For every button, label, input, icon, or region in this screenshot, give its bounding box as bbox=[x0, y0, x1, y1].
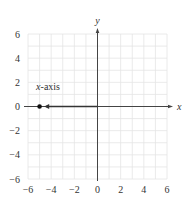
y-axis-arrowhead bbox=[96, 28, 100, 33]
y-tick-label: 4 bbox=[15, 53, 20, 64]
x-tick-label: 2 bbox=[118, 184, 123, 195]
x-tick-label: −2 bbox=[69, 184, 80, 195]
y-tick-label: −2 bbox=[9, 125, 20, 136]
coordinate-plane-chart: −6−4−20246 −6−4−20246 x y x-axis bbox=[0, 0, 184, 208]
x-tick-label: 6 bbox=[165, 184, 170, 195]
y-tick-label: 2 bbox=[15, 77, 20, 88]
annotation-x-axis: x-axis bbox=[35, 81, 60, 92]
x-tick-label: 0 bbox=[95, 184, 100, 195]
y-tick-label: −4 bbox=[9, 149, 20, 160]
y-tick-label: 6 bbox=[15, 29, 20, 40]
y-tick-label: −6 bbox=[9, 174, 20, 185]
x-tick-label: 4 bbox=[141, 184, 146, 195]
annotation-rest-part: -axis bbox=[41, 81, 61, 92]
y-tick-label: 0 bbox=[15, 101, 20, 112]
data-point-dot bbox=[37, 104, 42, 109]
axes bbox=[24, 28, 173, 181]
y-axis-label: y bbox=[94, 15, 100, 26]
chart-marks bbox=[37, 104, 97, 109]
x-tick-label: −6 bbox=[23, 184, 34, 195]
y-tick-labels: −6−4−20246 bbox=[9, 29, 20, 185]
series-arrowhead bbox=[44, 104, 49, 109]
x-tick-labels: −6−4−20246 bbox=[23, 184, 170, 195]
x-axis-label: x bbox=[176, 101, 182, 112]
x-axis-arrowhead bbox=[168, 105, 173, 109]
x-tick-label: −4 bbox=[46, 184, 57, 195]
